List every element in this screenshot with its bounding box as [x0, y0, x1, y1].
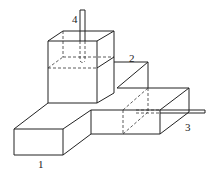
tank-diagram: 1 2 3 4	[0, 0, 216, 180]
left-block	[14, 103, 91, 155]
label-1: 1	[38, 158, 44, 170]
label-4: 4	[72, 13, 78, 25]
label-3: 3	[185, 121, 191, 133]
pipe-4	[80, 10, 85, 63]
step-block	[114, 62, 189, 88]
label-2: 2	[129, 52, 135, 64]
tall-tank	[48, 31, 114, 103]
right-block	[91, 88, 189, 134]
